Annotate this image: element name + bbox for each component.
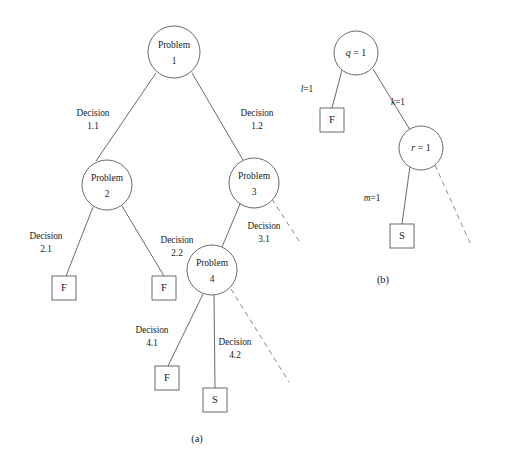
- terminal-node-f-2-2-label: F: [161, 282, 167, 293]
- node-problem-3-label-line2: 3: [252, 187, 257, 197]
- edge-p3-ellipsis-dashed: [272, 199, 299, 241]
- panel-a: Problem 1 Problem 2 Problem 3 Problem 4: [29, 26, 299, 445]
- node-problem-4-label-line2: 4: [210, 274, 215, 284]
- edge-label-decision-2-2-line2: 2.2: [171, 248, 183, 258]
- node-r-label: r = 1: [411, 142, 431, 153]
- node-problem-3-circle: [229, 158, 279, 208]
- edge-label-decision-2-1-line2: 2.1: [40, 244, 52, 254]
- edge-label-decision-1-1-line2: 1.1: [87, 121, 99, 131]
- edge-label-decision-1-2-line1: Decision: [240, 108, 273, 118]
- edge-r-ellipsis-dashed: [435, 165, 470, 243]
- edge-p2-to-f21: [66, 207, 93, 276]
- edge-label-decision-1-2-line2: 1.2: [251, 121, 263, 131]
- edge-label-l: l=1: [301, 84, 314, 94]
- terminal-node-s-b[interactable]: S: [390, 224, 414, 248]
- edge-p4-ellipsis-dashed: [231, 289, 289, 382]
- terminal-node-f-2-2[interactable]: F: [152, 276, 176, 300]
- terminal-node-s-4-2-label: S: [212, 394, 218, 405]
- edge-p4-to-f41: [168, 294, 203, 366]
- edge-label-decision-3-1: Decision 3.1: [247, 221, 280, 244]
- node-problem-4-label-line1: Problem: [196, 258, 229, 268]
- terminal-node-f-4-1[interactable]: F: [155, 366, 179, 390]
- figure-container: Problem 1 Problem 2 Problem 3 Problem 4: [0, 0, 509, 464]
- terminal-node-f-2-1[interactable]: F: [52, 276, 76, 300]
- edge-label-decision-4-1-line1: Decision: [135, 325, 168, 335]
- terminal-node-f-4-1-label: F: [164, 372, 170, 383]
- node-problem-1-label-line1: Problem: [158, 40, 191, 50]
- decision-tree-figure: Problem 1 Problem 2 Problem 3 Problem 4: [0, 0, 509, 464]
- edge-label-decision-2-1: Decision 2.1: [29, 231, 62, 254]
- edge-label-decision-4-2-line2: 4.2: [229, 350, 241, 360]
- edge-label-decision-1-2: Decision 1.2: [240, 108, 273, 131]
- terminal-node-f-b-label: F: [329, 114, 335, 125]
- edge-label-decision-4-2: Decision 4.2: [218, 337, 251, 360]
- edge-label-decision-2-2-line1: Decision: [160, 235, 193, 245]
- edge-label-k: k=1: [391, 97, 405, 107]
- panel-a-caption: (a): [191, 433, 203, 445]
- edge-label-m: m=1: [364, 193, 381, 203]
- terminal-node-s-b-label: S: [399, 230, 405, 241]
- node-problem-3[interactable]: Problem 3: [229, 158, 279, 208]
- terminal-node-s-4-2[interactable]: S: [203, 388, 227, 412]
- edge-label-decision-4-1-line2: 4.1: [146, 338, 158, 348]
- edge-label-decision-4-2-line1: Decision: [218, 337, 251, 347]
- edge-label-decision-2-2: Decision 2.2: [160, 235, 193, 258]
- node-problem-3-label-line1: Problem: [238, 171, 271, 181]
- panel-b-caption: (b): [377, 274, 390, 286]
- node-problem-1-circle: [148, 26, 200, 78]
- edge-r-to-s: [402, 166, 410, 224]
- edge-label-decision-4-1: Decision 4.1: [135, 325, 168, 348]
- node-problem-1-label-line2: 1: [172, 56, 177, 66]
- terminal-node-f-b[interactable]: F: [320, 108, 344, 132]
- edge-label-decision-3-1-line1: Decision: [247, 221, 280, 231]
- node-q[interactable]: q = 1: [334, 31, 378, 75]
- node-problem-2-label-line1: Problem: [91, 173, 124, 183]
- edge-label-decision-1-1: Decision 1.1: [76, 108, 109, 131]
- edge-label-decision-2-1-line1: Decision: [29, 231, 62, 241]
- edge-label-decision-1-1-line1: Decision: [76, 108, 109, 118]
- node-problem-4[interactable]: Problem 4: [187, 245, 237, 295]
- node-problem-2-label-line2: 2: [105, 189, 110, 199]
- edge-p2-to-f22: [122, 206, 164, 276]
- edge-p1-to-p3: [192, 73, 243, 160]
- node-problem-4-circle: [187, 245, 237, 295]
- terminal-node-f-2-1-label: F: [61, 282, 67, 293]
- node-q-label: q = 1: [346, 47, 367, 58]
- panel-b: q = 1 r = 1 F S l=1 k=1 m=1 (b): [301, 31, 470, 286]
- edge-p3-to-p4: [222, 204, 240, 247]
- edge-label-decision-3-1-line2: 3.1: [258, 234, 270, 244]
- node-problem-2[interactable]: Problem 2: [82, 160, 132, 210]
- node-r[interactable]: r = 1: [399, 126, 443, 170]
- edge-q-to-f: [332, 70, 342, 108]
- edge-p4-to-s42: [214, 295, 215, 388]
- node-problem-1[interactable]: Problem 1: [148, 26, 200, 78]
- node-problem-2-circle: [82, 160, 132, 210]
